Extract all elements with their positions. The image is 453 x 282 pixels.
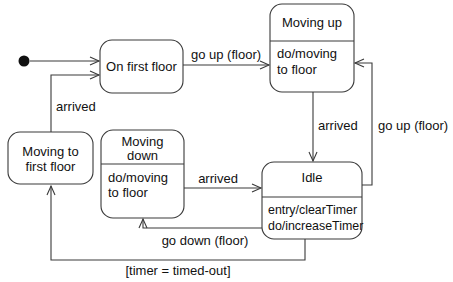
- transition-go-up-from-first-floor: go up (floor): [183, 47, 269, 65]
- transition-arrived-to-first-floor: arrived: [51, 75, 99, 132]
- state-moving-up-activity-line2: to floor: [277, 62, 317, 77]
- state-moving-down-activity-line2: to floor: [108, 185, 148, 200]
- state-on-first-floor: On first floor: [100, 40, 183, 93]
- state-idle-activity-line1: entry/clearTimer: [268, 203, 357, 217]
- transition-label-moving-up-arrived: arrived: [318, 118, 358, 133]
- state-idle-title: Idle: [302, 170, 323, 185]
- state-moving-down-activity-line1: do/moving: [108, 170, 168, 185]
- transition-label-go-down-from-idle: go down (floor): [162, 233, 249, 248]
- initial-state-dot: [19, 56, 30, 67]
- state-moving-down-title-line1: Moving: [122, 134, 164, 149]
- state-moving-up-activity-line1: do/moving: [277, 46, 337, 61]
- state-moving-to-first-floor-title-line1: Moving to: [22, 144, 78, 159]
- transition-go-down-from-idle-path: [143, 219, 262, 228]
- state-on-first-floor-title: On first floor: [106, 59, 177, 74]
- state-moving-down: Moving down do/moving to floor: [101, 130, 184, 218]
- transition-label-idle-timer-timeout: [timer = timed-out]: [125, 263, 230, 278]
- state-moving-up-title: Moving up: [282, 15, 342, 30]
- transition-moving-down-arrived: arrived: [184, 171, 261, 188]
- state-moving-up: Moving up do/moving to floor: [270, 4, 354, 92]
- state-idle-activity-line2: do/increaseTimer: [268, 219, 363, 233]
- transition-label-go-up-from-first-floor: go up (floor): [191, 47, 261, 62]
- initial-state: [19, 56, 100, 67]
- transition-label-arrived-first-floor: arrived: [56, 99, 96, 114]
- transition-label-moving-down-arrived: arrived: [198, 171, 238, 186]
- state-diagram-canvas: arrived go up (floor) On first floor Mov…: [0, 0, 453, 282]
- transition-label-go-up-from-idle: go up (floor): [378, 118, 448, 133]
- state-idle: Idle entry/clearTimer do/increaseTimer: [262, 162, 363, 239]
- state-moving-to-first-floor-title-line2: first floor: [26, 159, 77, 174]
- transition-moving-up-arrived: arrived: [313, 92, 358, 161]
- transition-go-up-from-idle: go up (floor): [355, 63, 448, 185]
- state-moving-down-title-line2: down: [127, 148, 158, 163]
- state-moving-to-first-floor: Moving to first floor: [8, 132, 93, 184]
- transition-go-down-from-idle: go down (floor): [143, 219, 262, 248]
